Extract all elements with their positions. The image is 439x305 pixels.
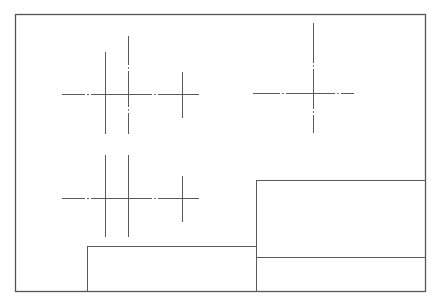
drawing-canvas <box>0 0 439 305</box>
lower-left-box <box>88 247 257 292</box>
drawing-frame <box>16 15 426 292</box>
right-lower-box <box>257 258 426 292</box>
right-upper-box <box>257 181 426 258</box>
